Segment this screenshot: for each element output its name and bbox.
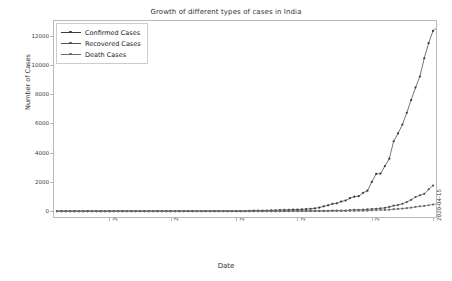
data-point xyxy=(362,210,364,212)
legend-item[interactable]: Recovered Cases xyxy=(61,38,141,49)
legend-swatch-icon xyxy=(61,29,81,37)
data-point xyxy=(213,210,215,212)
data-point xyxy=(91,210,93,212)
data-point xyxy=(270,210,272,212)
data-point xyxy=(69,210,71,212)
data-point xyxy=(108,210,110,212)
x-tick-mark xyxy=(372,218,373,221)
data-point xyxy=(117,210,119,212)
data-point xyxy=(327,210,329,212)
chart-figure: Growth of different types of cases in In… xyxy=(0,0,452,281)
x-tick-mark xyxy=(109,218,110,221)
data-point xyxy=(353,210,355,212)
data-point xyxy=(305,208,307,210)
data-point xyxy=(393,208,395,210)
data-point xyxy=(139,210,141,212)
data-point xyxy=(288,210,290,212)
data-point xyxy=(78,210,80,212)
data-point xyxy=(148,210,150,212)
data-point xyxy=(331,203,333,205)
data-point xyxy=(296,210,298,212)
data-point xyxy=(314,210,316,212)
data-point xyxy=(156,210,158,212)
data-point xyxy=(384,207,386,209)
data-point xyxy=(309,208,311,210)
data-point xyxy=(428,42,430,44)
data-point xyxy=(428,188,430,190)
legend-swatch-icon xyxy=(61,40,81,48)
data-point xyxy=(410,207,412,209)
legend-item-label: Confirmed Cases xyxy=(85,29,140,37)
chart-legend: Confirmed CasesRecovered CasesDeath Case… xyxy=(56,23,148,64)
data-point xyxy=(379,173,381,175)
data-point xyxy=(344,199,346,201)
data-point xyxy=(379,209,381,211)
data-point xyxy=(226,210,228,212)
data-point xyxy=(244,210,246,212)
data-point xyxy=(231,210,233,212)
x-tick-mark xyxy=(236,218,237,221)
data-point xyxy=(248,210,250,212)
data-point xyxy=(187,210,189,212)
data-point xyxy=(279,210,281,212)
data-point xyxy=(314,207,316,209)
data-point xyxy=(257,210,259,212)
data-point xyxy=(419,75,421,77)
data-point xyxy=(393,205,395,207)
data-point xyxy=(401,207,403,209)
data-point xyxy=(135,210,137,212)
data-point xyxy=(371,181,373,183)
data-point xyxy=(183,210,185,212)
data-point xyxy=(283,210,285,212)
data-point xyxy=(261,210,263,212)
data-point xyxy=(336,210,338,212)
data-point xyxy=(397,208,399,210)
data-point xyxy=(305,210,307,212)
data-point xyxy=(143,210,145,212)
legend-item[interactable]: Confirmed Cases xyxy=(61,27,141,38)
series-line-1 xyxy=(57,186,433,212)
data-point xyxy=(414,196,416,198)
data-point xyxy=(82,210,84,212)
data-point xyxy=(113,210,115,212)
data-point xyxy=(318,206,320,208)
data-point xyxy=(152,210,154,212)
data-point xyxy=(222,210,224,212)
data-point xyxy=(358,195,360,197)
data-point xyxy=(323,205,325,207)
data-point xyxy=(126,210,128,212)
data-point xyxy=(253,210,255,212)
data-point xyxy=(331,210,333,212)
data-point xyxy=(388,158,390,160)
data-point xyxy=(406,112,408,114)
data-point xyxy=(165,210,167,212)
data-point xyxy=(384,209,386,211)
data-point xyxy=(410,99,412,101)
data-point xyxy=(275,210,277,212)
data-point xyxy=(191,210,193,212)
data-point xyxy=(336,202,338,204)
data-point xyxy=(432,30,434,32)
data-point xyxy=(362,192,364,194)
data-point xyxy=(423,205,425,207)
data-point xyxy=(73,210,75,212)
x-tick-mark xyxy=(433,218,434,221)
data-point xyxy=(419,194,421,196)
data-point xyxy=(292,210,294,212)
data-point xyxy=(375,173,377,175)
data-point xyxy=(209,210,211,212)
data-point xyxy=(121,210,123,212)
x-tick-mark xyxy=(297,218,298,221)
data-point xyxy=(318,210,320,212)
data-point xyxy=(301,210,303,212)
legend-item[interactable]: Death Cases xyxy=(61,49,141,60)
data-point xyxy=(161,210,163,212)
data-point xyxy=(358,210,360,212)
data-point xyxy=(414,206,416,208)
data-point xyxy=(349,197,351,199)
data-point xyxy=(240,210,242,212)
data-point xyxy=(366,190,368,192)
data-point xyxy=(414,87,416,89)
data-point xyxy=(178,210,180,212)
data-point xyxy=(419,205,421,207)
